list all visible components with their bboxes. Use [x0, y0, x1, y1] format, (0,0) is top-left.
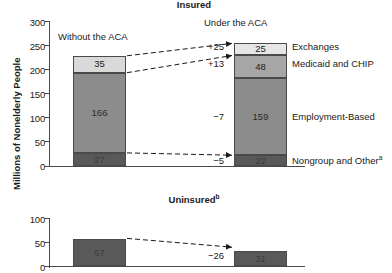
y-tick-mark-u-100 — [44, 218, 50, 219]
category-label-exchanges: Exchanges — [292, 41, 339, 52]
category-label-nongroup: Nongroup and Othera — [292, 155, 382, 166]
bar-value-uninsured-left: 57 — [94, 248, 105, 258]
panel-title-uninsured: Uninsuredb — [134, 194, 254, 205]
category-label-nongroup-text: Nongroup and Other — [292, 155, 379, 166]
category-label-employment: Employment-Based — [292, 111, 375, 122]
bar-value-uninsured-right: 31 — [255, 254, 266, 264]
footnote-marker-b: b — [216, 193, 220, 200]
y-tick-u-50: 50 — [21, 238, 45, 249]
delta-uninsured: −26 — [184, 250, 224, 261]
delta-medicaid: +13 — [184, 58, 224, 69]
y-axis-spine-uninsured — [49, 218, 50, 268]
category-label-exchanges-text: Exchanges — [292, 41, 339, 52]
delta-exchanges: +25 — [184, 41, 224, 52]
category-label-medicaid: Medicaid and CHIP — [292, 58, 374, 69]
x-axis-baseline-uninsured — [49, 266, 305, 267]
delta-employment: −7 — [184, 111, 224, 122]
footnote-marker-a: a — [379, 154, 383, 161]
arrow-uninsured — [127, 238, 232, 247]
panel-title-uninsured-text: Uninsured — [169, 194, 216, 205]
y-tick-u-100: 100 — [21, 214, 45, 225]
category-label-employment-text: Employment-Based — [292, 111, 375, 122]
category-label-medicaid-text: Medicaid and CHIP — [292, 58, 374, 69]
bar-uninsured-under-aca: 31 — [234, 251, 287, 266]
bar-uninsured-without-aca: 57 — [73, 239, 126, 266]
y-tick-u-0: 0 — [21, 262, 45, 273]
y-tick-mark-u-50 — [44, 242, 50, 243]
delta-nongroup: −5 — [184, 155, 224, 166]
